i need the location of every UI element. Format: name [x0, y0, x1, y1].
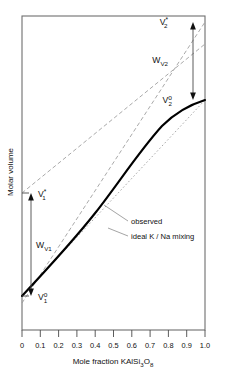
molar-volume-chart: V*2 WV2 Vo2 V*1 WV1 Vo1 observed ideal K… — [0, 0, 225, 375]
x-tick-4: 0.4 — [90, 341, 100, 350]
x-tick-2: 0.2 — [53, 341, 63, 350]
x-tick-7: 0.7 — [145, 341, 155, 350]
x-tick-9: 0.9 — [182, 341, 192, 350]
x-tick-10: 1.0 — [200, 341, 210, 350]
x-tick-5: 0.5 — [108, 341, 118, 350]
chart-figure: V*2 WV2 Vo2 V*1 WV1 Vo1 observed ideal K… — [0, 0, 225, 375]
x-tick-3: 0.3 — [72, 341, 82, 350]
x-tick-0: 0 — [20, 341, 24, 350]
chart-background — [0, 0, 225, 375]
x-tick-1: 0.1 — [35, 341, 45, 350]
x-tick-6: 0.6 — [127, 341, 137, 350]
x-tick-8: 0.8 — [163, 341, 173, 350]
y-axis-title: Molar volume — [6, 147, 15, 196]
label-observed: observed — [131, 217, 162, 226]
label-ideal-mixing: ideal K / Na mixing — [131, 232, 194, 241]
